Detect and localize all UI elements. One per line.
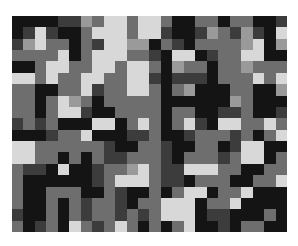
mosaic-cell [58, 96, 69, 107]
mosaic-cell [218, 39, 229, 50]
mosaic-cell [218, 118, 229, 129]
mosaic-cell [46, 209, 57, 220]
mosaic-cell [46, 198, 57, 209]
mosaic-cell [230, 221, 241, 232]
mosaic-cell [276, 164, 287, 175]
mosaic-cell [23, 198, 34, 209]
mosaic-cell [253, 84, 264, 95]
mosaic-cell [253, 175, 264, 186]
mosaic-cell [276, 152, 287, 163]
mosaic-cell [184, 107, 195, 118]
mosaic-cell [138, 175, 149, 186]
mosaic-cell [81, 221, 92, 232]
mosaic-cell [69, 39, 80, 50]
mosaic-cell [127, 152, 138, 163]
mosaic-cell [12, 118, 23, 129]
mosaic-cell [253, 16, 264, 27]
mosaic-cell [195, 61, 206, 72]
mosaic-cell [127, 50, 138, 61]
mosaic-cell [149, 73, 160, 84]
mosaic-cell [115, 96, 126, 107]
mosaic-cell [276, 141, 287, 152]
mosaic-cell [35, 221, 46, 232]
mosaic-cell [138, 209, 149, 220]
mosaic-cell [195, 152, 206, 163]
mosaic-cell [138, 16, 149, 27]
mosaic-cell [127, 96, 138, 107]
mosaic-cell [264, 209, 275, 220]
mosaic-cell [218, 130, 229, 141]
mosaic-cell [172, 39, 183, 50]
mosaic-cell [276, 27, 287, 38]
mosaic-cell [115, 16, 126, 27]
mosaic-cell [161, 209, 172, 220]
mosaic-cell [92, 187, 103, 198]
mosaic-cell [115, 50, 126, 61]
mosaic-cell [35, 209, 46, 220]
mosaic-cell [207, 73, 218, 84]
mosaic-cell [253, 39, 264, 50]
mosaic-cell [161, 221, 172, 232]
mosaic-cell [138, 50, 149, 61]
mosaic-cell [241, 198, 252, 209]
mosaic-cell [161, 16, 172, 27]
mosaic-cell [161, 141, 172, 152]
mosaic-cell [230, 130, 241, 141]
mosaic-cell [264, 16, 275, 27]
mosaic-cell [115, 73, 126, 84]
mosaic-cell [12, 16, 23, 27]
mosaic-cell [172, 198, 183, 209]
mosaic-cell [161, 39, 172, 50]
mosaic-cell [115, 198, 126, 209]
mosaic-cell [276, 130, 287, 141]
mosaic-cell [264, 107, 275, 118]
mosaic-cell [115, 187, 126, 198]
mosaic-cell [276, 39, 287, 50]
mosaic-cell [46, 164, 57, 175]
mosaic-cell [46, 61, 57, 72]
mosaic-cell [195, 118, 206, 129]
mosaic-cell [172, 84, 183, 95]
mosaic-cell [92, 61, 103, 72]
mosaic-cell [12, 27, 23, 38]
mosaic-cell [207, 84, 218, 95]
mosaic-cell [23, 107, 34, 118]
mosaic-cell [46, 118, 57, 129]
mosaic-cell [104, 198, 115, 209]
mosaic-cell [230, 164, 241, 175]
mosaic-cell [104, 118, 115, 129]
mosaic-cell [218, 187, 229, 198]
mosaic-cell [172, 50, 183, 61]
mosaic-cell [195, 107, 206, 118]
mosaic-cell [195, 209, 206, 220]
mosaic-cell [127, 27, 138, 38]
mosaic-cell [46, 39, 57, 50]
mosaic-cell [115, 84, 126, 95]
mosaic-cell [253, 73, 264, 84]
mosaic-cell [12, 130, 23, 141]
mosaic-cell [184, 187, 195, 198]
mosaic-cell [58, 118, 69, 129]
mosaic-cell [241, 187, 252, 198]
mosaic-cell [241, 96, 252, 107]
mosaic-cell [92, 96, 103, 107]
mosaic-cell [138, 152, 149, 163]
mosaic-cell [81, 141, 92, 152]
mosaic-cell [92, 198, 103, 209]
mosaic-cell [207, 187, 218, 198]
mosaic-cell [264, 39, 275, 50]
mosaic-cell [58, 221, 69, 232]
mosaic-cell [264, 73, 275, 84]
mosaic-cell [81, 61, 92, 72]
mosaic-cell [161, 198, 172, 209]
mosaic-cell [12, 84, 23, 95]
mosaic-cell [195, 141, 206, 152]
mosaic-cell [35, 152, 46, 163]
mosaic-cell [138, 27, 149, 38]
mosaic-cell [184, 152, 195, 163]
mosaic-cell [69, 130, 80, 141]
mosaic-cell [138, 198, 149, 209]
mosaic-cell [104, 130, 115, 141]
mosaic-cell [161, 164, 172, 175]
mosaic-cell [12, 198, 23, 209]
